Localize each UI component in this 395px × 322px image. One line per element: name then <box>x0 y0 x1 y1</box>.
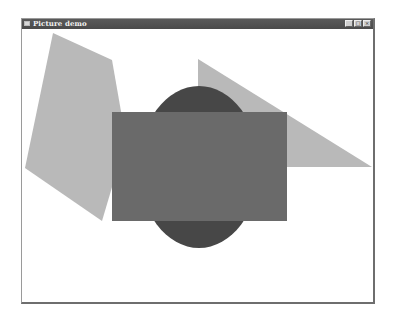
light-polygon <box>25 33 126 221</box>
picture-drawing <box>0 0 395 322</box>
medium-rectangle <box>112 112 287 221</box>
